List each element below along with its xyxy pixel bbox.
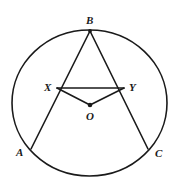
point-label-b: B — [86, 15, 93, 26]
segment-x-o — [57, 88, 90, 105]
point-label-o: O — [86, 111, 94, 122]
geometry-canvas — [0, 0, 176, 191]
point-label-x: X — [44, 82, 51, 93]
point-dot-b — [88, 29, 92, 33]
point-dot-o — [88, 103, 93, 108]
segment-y-o — [90, 88, 124, 105]
point-label-y: Y — [129, 82, 136, 93]
geometry-figure: BXYOAC — [0, 0, 176, 191]
point-label-a: A — [16, 147, 23, 158]
point-dot-layer — [88, 29, 93, 107]
point-label-c: C — [155, 148, 162, 159]
